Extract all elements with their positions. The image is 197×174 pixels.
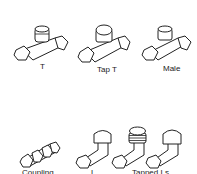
tap-tee-fitting-icon bbox=[78, 25, 130, 62]
label-coupling: Coupling bbox=[22, 169, 54, 174]
tapped-elbow-cap-fitting-icon bbox=[146, 130, 181, 168]
label-male: Male bbox=[163, 65, 180, 73]
label-tapped-ls: Tapped Ls bbox=[132, 169, 169, 174]
tapped-elbow-fitting-icon bbox=[112, 127, 146, 168]
fittings-diagram bbox=[0, 0, 197, 174]
label-t: T bbox=[40, 63, 45, 71]
tee-fitting-icon bbox=[14, 26, 68, 60]
label-l: L bbox=[91, 169, 95, 174]
label-tap-t: Tap T bbox=[97, 66, 117, 74]
coupling-fitting-icon bbox=[20, 142, 60, 167]
elbow-fitting-icon bbox=[76, 131, 111, 169]
male-tee-fitting-icon bbox=[142, 26, 191, 60]
